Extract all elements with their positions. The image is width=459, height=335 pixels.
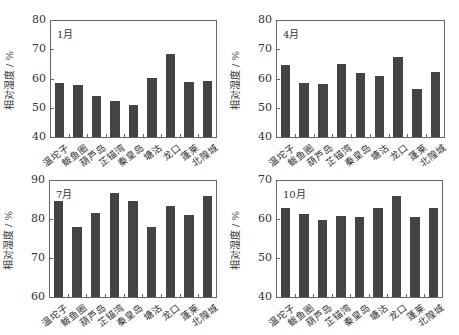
x-tick-mark: [389, 134, 390, 137]
y-tick-label: 40: [248, 291, 272, 303]
x-tick-mark: [406, 294, 407, 297]
panel-title: 10月: [283, 186, 306, 201]
bar-塘沽: [375, 76, 385, 137]
x-tick-mark: [180, 134, 181, 137]
y-tick-mark: [277, 108, 280, 109]
bar-芷锚湾: [110, 193, 120, 297]
bar-温坨子: [281, 65, 291, 137]
x-tick-mark: [161, 134, 162, 137]
bar-秦皇岛: [356, 73, 366, 137]
x-tick-mark: [106, 134, 107, 137]
x-tick-mark: [142, 294, 143, 297]
bar-北隍城: [431, 72, 441, 137]
bar-芷锚湾: [110, 101, 120, 137]
y-tick-label: 40: [248, 131, 272, 143]
y-tick-label: 80: [22, 14, 46, 26]
y-axis-title: 相对湿度 / %: [227, 210, 242, 269]
bar-芷锚湾: [337, 64, 347, 137]
y-tick-label: 70: [248, 174, 272, 186]
bar-蓬莱: [184, 215, 194, 297]
y-tick-label: 40: [22, 131, 46, 143]
bar-龙口: [166, 206, 176, 297]
y-tick-mark: [277, 297, 280, 298]
x-tick-mark: [124, 294, 125, 297]
x-tick-mark: [69, 134, 70, 137]
y-tick-label: 80: [248, 14, 272, 26]
x-tick-mark: [161, 294, 162, 297]
bar-塘沽: [373, 208, 383, 297]
y-tick-label: 70: [248, 43, 272, 55]
x-tick-mark: [370, 134, 371, 137]
bar-蓬莱: [410, 217, 420, 297]
x-tick-mark: [314, 134, 315, 137]
bar-北隍城: [429, 208, 439, 297]
bar-北隍城: [203, 196, 213, 297]
y-tick-mark: [50, 219, 53, 220]
bar-龙口: [393, 57, 403, 137]
y-tick-label: 60: [22, 73, 46, 85]
bar-秦皇岛: [355, 217, 365, 297]
x-tick-mark: [350, 294, 351, 297]
x-tick-mark: [426, 134, 427, 137]
y-tick-label: 50: [22, 102, 46, 114]
y-tick-mark: [51, 137, 54, 138]
y-tick-mark: [51, 49, 54, 50]
panel-title: 4月: [283, 26, 299, 41]
bar-葫芦岛: [92, 96, 102, 137]
x-tick-mark: [105, 294, 106, 297]
x-tick-mark: [295, 134, 296, 137]
y-tick-mark: [50, 297, 53, 298]
bar-葫芦岛: [318, 220, 328, 297]
y-tick-label: 60: [21, 291, 45, 303]
y-tick-label: 60: [248, 213, 272, 225]
x-tick-mark: [198, 294, 199, 297]
x-tick-mark: [86, 294, 87, 297]
bar-温坨子: [281, 208, 291, 297]
y-tick-label: 60: [248, 73, 272, 85]
y-tick-label: 70: [22, 43, 46, 55]
y-tick-mark: [51, 20, 54, 21]
bar-龙口: [166, 54, 176, 137]
bar-葫芦岛: [91, 213, 101, 297]
x-tick-mark: [143, 134, 144, 137]
y-axis-title: 相对湿度 / %: [0, 210, 15, 269]
y-axis-title: 相对湿度 / %: [227, 50, 242, 109]
bar-塘沽: [147, 227, 157, 297]
x-tick-mark: [68, 294, 69, 297]
x-tick-mark: [424, 294, 425, 297]
y-tick-label: 80: [21, 213, 45, 225]
x-tick-mark: [313, 294, 314, 297]
y-tick-mark: [277, 137, 280, 138]
panel-title: 7月: [56, 186, 72, 201]
y-tick-label: 70: [21, 252, 45, 264]
panel-title: 1月: [57, 26, 73, 41]
bar-鲅鱼圈: [299, 214, 309, 297]
bar-秦皇岛: [129, 105, 139, 137]
x-tick-mark: [124, 134, 125, 137]
x-tick-mark: [332, 134, 333, 137]
bar-鲅鱼圈: [73, 85, 83, 137]
bar-温坨子: [55, 83, 65, 137]
bar-葫芦岛: [318, 84, 328, 137]
y-tick-mark: [51, 79, 54, 80]
x-tick-mark: [387, 294, 388, 297]
x-tick-mark: [351, 134, 352, 137]
bar-蓬莱: [412, 89, 422, 137]
y-tick-label: 90: [21, 174, 45, 186]
x-tick-mark: [198, 134, 199, 137]
y-tick-mark: [277, 180, 280, 181]
x-tick-mark: [180, 294, 181, 297]
bar-蓬莱: [184, 82, 194, 137]
y-tick-label: 50: [248, 102, 272, 114]
y-tick-mark: [277, 79, 280, 80]
bar-秦皇岛: [128, 201, 138, 297]
bar-塘沽: [147, 78, 157, 137]
bar-鲅鱼圈: [72, 227, 82, 297]
x-tick-mark: [87, 134, 88, 137]
y-tick-mark: [277, 49, 280, 50]
bar-龙口: [392, 196, 402, 297]
x-tick-mark: [295, 294, 296, 297]
x-tick-mark: [332, 294, 333, 297]
bar-鲅鱼圈: [299, 83, 309, 137]
y-tick-mark: [50, 258, 53, 259]
